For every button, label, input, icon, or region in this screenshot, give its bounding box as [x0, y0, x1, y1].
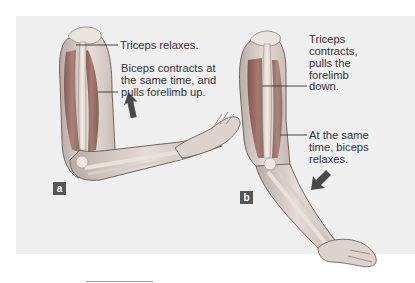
label-a-biceps-line3: pulls forelimb up.: [121, 87, 206, 99]
arm-b-humerus: [263, 44, 272, 158]
label-b-triceps-line2: contracts,: [309, 46, 358, 58]
arm-a-humerus: [79, 42, 87, 150]
arm-a-hand: [175, 117, 240, 158]
label-b-biceps-line1: At the same: [309, 130, 369, 142]
bottom-divider: [86, 281, 153, 282]
label-a-triceps: Triceps relaxes.: [120, 40, 199, 52]
panel-a-badge: a: [53, 182, 66, 195]
arm-b-hand: [318, 239, 376, 266]
label-b-triceps-line1: Triceps: [309, 34, 345, 46]
label-a-biceps-line1: Biceps contracts at: [121, 63, 216, 75]
label-b-biceps-line3: relaxes.: [309, 154, 348, 166]
label-b-triceps-line5: down.: [309, 81, 339, 93]
panel-b-badge: b: [240, 191, 253, 204]
arm-b-arrow-down-left-icon: [311, 170, 331, 190]
label-b-biceps-line2: time, biceps: [309, 142, 369, 154]
label-b-triceps-line3: pulls the: [309, 58, 351, 70]
label-a-biceps-line2: the same time, and: [121, 75, 216, 87]
